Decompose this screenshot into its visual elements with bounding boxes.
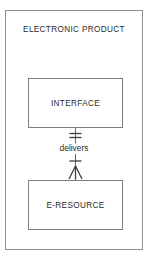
diagram-canvas: ELECTRONIC PRODUCT INTERFACE delivers E-…	[0, 0, 151, 263]
entity-e-resource[interactable]: E-RESOURCE	[28, 180, 123, 230]
crows-foot-notation-icon	[28, 128, 123, 180]
entity-e-resource-label: E-RESOURCE	[46, 201, 104, 210]
relationship-connector	[28, 128, 123, 180]
container-title: ELECTRONIC PRODUCT	[5, 25, 143, 34]
entity-interface-label: INTERFACE	[51, 99, 100, 108]
relationship-label: delivers	[5, 143, 143, 153]
entity-interface[interactable]: INTERFACE	[28, 78, 123, 128]
